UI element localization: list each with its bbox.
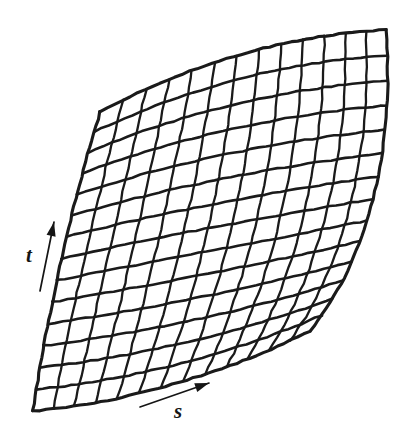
parametric-surface-figure: ts (0, 0, 407, 443)
surface-mesh-canvas: ts (0, 0, 407, 443)
s-direction-label: s (173, 399, 182, 423)
